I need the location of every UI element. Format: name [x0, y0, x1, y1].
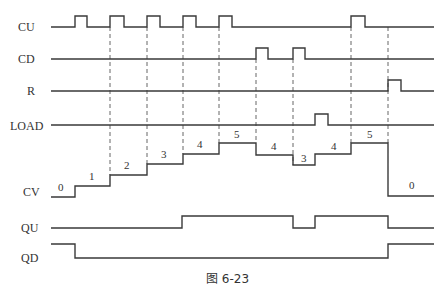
signal-label-r: R — [27, 84, 35, 98]
cv-waveform — [51, 143, 434, 197]
timing-diagram: CU CD R LOAD CV QU QD 0 1 2 3 4 5 4 3 4 … — [0, 0, 442, 288]
signal-label-qu: QU — [21, 221, 39, 235]
signal-label-qd: QD — [21, 251, 39, 265]
signal-label-cd: CD — [18, 52, 35, 66]
cv-value: 3 — [301, 152, 307, 164]
load-waveform — [51, 114, 434, 125]
cv-value: 4 — [331, 140, 337, 152]
cv-value: 3 — [161, 148, 167, 160]
cu-waveform — [51, 16, 434, 27]
signal-label-load: LOAD — [10, 119, 44, 133]
cv-value: 5 — [234, 128, 240, 140]
qd-waveform — [51, 244, 434, 258]
cv-value: 2 — [124, 159, 130, 171]
cd-waveform — [51, 48, 434, 59]
r-waveform — [51, 80, 434, 91]
cv-value: 0 — [409, 179, 415, 191]
cv-value: 4 — [197, 138, 203, 150]
signal-label-cu: CU — [18, 20, 35, 34]
qu-waveform — [51, 216, 434, 228]
cv-value: 1 — [89, 170, 95, 182]
figure-caption: 图 6-23 — [206, 272, 249, 286]
cv-value: 5 — [367, 128, 373, 140]
signal-label-cv: CV — [23, 185, 40, 199]
cv-value-labels: 0 1 2 3 4 5 4 3 4 5 0 — [58, 128, 415, 193]
cv-value: 0 — [58, 181, 64, 193]
timing-guides — [110, 27, 388, 175]
cv-value: 4 — [271, 140, 277, 152]
